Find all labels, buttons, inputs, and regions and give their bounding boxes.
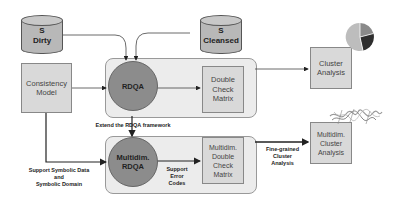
double-label: Double <box>211 75 235 85</box>
cleansed-label: Cleansed <box>200 36 242 46</box>
cleansed-s-label: S <box>200 26 242 36</box>
multidim-cluster-label-2: Cluster <box>317 139 345 148</box>
rdqa-node: RDQA <box>108 61 158 111</box>
double-check-matrix-box: Double Check Matrix <box>202 66 244 113</box>
consistency-model-box: Consistency Model <box>21 63 72 113</box>
multidim-rdqa-node: Multidim. RDQA <box>108 137 158 187</box>
multidim-cluster-analysis-box: Multidim. Cluster Analysis <box>310 122 352 164</box>
multidim-cluster-label-3: Analysis <box>317 148 345 157</box>
multidim-rdqa-label: RDQA <box>117 162 150 171</box>
dirty-label: Dirty <box>21 36 63 46</box>
scatter-cluster-icon <box>328 106 383 128</box>
error-codes-label: Support Error Codes <box>160 166 194 187</box>
cluster-label: Cluster <box>317 59 345 69</box>
fine-grained-label: Fine-grained Cluster Analysis <box>255 146 310 167</box>
symbolic-data-label: Support Symbolic Data and Symbolic Domai… <box>14 167 104 188</box>
multidim-cluster-label-1: Multidim. <box>317 130 345 139</box>
matrix-label: Matrix <box>211 94 235 104</box>
analysis-label: Analysis <box>317 68 345 78</box>
model-label: Model <box>26 88 67 98</box>
rdqa-label: RDQA <box>122 82 144 91</box>
pie-chart-icon <box>345 22 375 52</box>
multidim-label: Multidim. <box>117 153 150 162</box>
check-label: Check <box>211 85 235 95</box>
cleansed-data-cylinder: S Cleansed <box>200 15 242 59</box>
multidim-dcm-label-3: Check <box>209 161 237 170</box>
dirty-s-label: S <box>21 26 63 36</box>
multidim-double-check-matrix-box: Multidim. Double Check Matrix <box>202 137 244 184</box>
extend-framework-label: Extend the RDQA framework <box>88 122 178 129</box>
multidim-dcm-label-2: Double <box>209 152 237 161</box>
multidim-dcm-label-1: Multidim. <box>209 143 237 152</box>
dirty-data-cylinder: S Dirty <box>21 15 63 59</box>
consistency-label: Consistency <box>26 79 67 89</box>
multidim-dcm-label-4: Matrix <box>209 170 237 179</box>
cluster-analysis-box: Cluster Analysis <box>310 47 352 89</box>
